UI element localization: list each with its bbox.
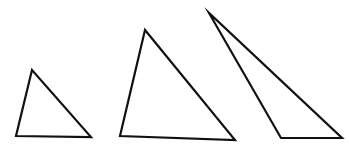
figure-canvas	[0, 0, 349, 150]
triangles-diagram	[0, 0, 349, 150]
